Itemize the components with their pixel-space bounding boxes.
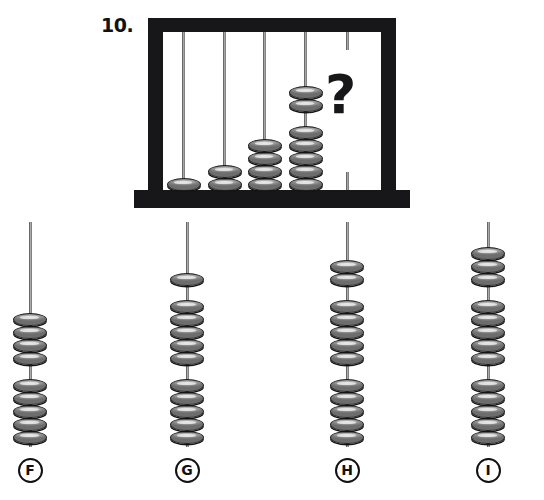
- option-f-bead: [13, 405, 47, 418]
- option-h-bead: [330, 273, 364, 286]
- abacus-bead: [248, 165, 282, 178]
- abacus-bead: [289, 99, 323, 112]
- abacus-rod-1: [182, 32, 185, 190]
- abacus-bead: [289, 126, 323, 139]
- option-g-bead: [170, 352, 204, 365]
- option-label-h[interactable]: H: [335, 458, 360, 483]
- option-f-bead: [13, 392, 47, 405]
- option-i-bead: [471, 300, 505, 313]
- question-mark-icon: ?: [325, 68, 356, 122]
- option-i-bead: [471, 392, 505, 405]
- question-number: 10.: [101, 14, 133, 36]
- option-f-bead: [13, 431, 47, 444]
- option-g-bead: [170, 405, 204, 418]
- frame-base-bar: [134, 190, 410, 208]
- abacus-bead: [289, 152, 323, 165]
- option-i-bead: [471, 405, 505, 418]
- option-g-bead: [170, 418, 204, 431]
- abacus-bead: [289, 86, 323, 99]
- frame-post-right: [381, 18, 396, 190]
- option-h-bead: [330, 418, 364, 431]
- option-h-bead: [330, 300, 364, 313]
- option-g-bead: [170, 392, 204, 405]
- option-g-bead: [170, 339, 204, 352]
- abacus-bead: [248, 139, 282, 152]
- option-i-bead: [471, 352, 505, 365]
- option-h-bead: [330, 260, 364, 273]
- option-f-bead: [13, 352, 47, 365]
- frame-top-bar: [148, 18, 396, 32]
- option-h-bead: [330, 405, 364, 418]
- abacus-rod-5-stub-top: [346, 32, 349, 50]
- option-g-bead: [170, 300, 204, 313]
- option-i-bead: [471, 326, 505, 339]
- option-h-bead: [330, 313, 364, 326]
- option-g-bead: [170, 431, 204, 444]
- option-label-f[interactable]: F: [18, 458, 43, 483]
- option-i-bead: [471, 260, 505, 273]
- option-h-bead: [330, 379, 364, 392]
- worksheet-page: 10. ? FGHI: [0, 0, 544, 500]
- option-label-g[interactable]: G: [175, 458, 200, 483]
- abacus-bead: [289, 139, 323, 152]
- option-i-bead: [471, 273, 505, 286]
- option-i-bead: [471, 339, 505, 352]
- option-label-i[interactable]: I: [476, 458, 501, 483]
- abacus-bead: [208, 178, 242, 191]
- option-f-bead: [13, 339, 47, 352]
- abacus-bead: [208, 165, 242, 178]
- option-h-bead: [330, 326, 364, 339]
- option-f-bead: [13, 313, 47, 326]
- option-h-bead: [330, 339, 364, 352]
- option-h-bead: [330, 352, 364, 365]
- abacus-bead: [248, 178, 282, 191]
- option-f-bead: [13, 326, 47, 339]
- option-g-bead: [170, 379, 204, 392]
- abacus-frame: [148, 18, 396, 208]
- option-i-bead: [471, 431, 505, 444]
- option-g-bead: [170, 326, 204, 339]
- option-g-bead: [170, 313, 204, 326]
- option-f-bead: [13, 418, 47, 431]
- abacus-bead: [248, 152, 282, 165]
- frame-post-left: [148, 18, 163, 190]
- abacus-bead: [289, 178, 323, 191]
- option-i-bead: [471, 418, 505, 431]
- option-g-bead: [170, 273, 204, 286]
- abacus-bead: [289, 165, 323, 178]
- option-i-bead: [471, 379, 505, 392]
- abacus-bead: [167, 178, 201, 191]
- option-i-bead: [471, 247, 505, 260]
- option-h-bead: [330, 431, 364, 444]
- option-i-bead: [471, 313, 505, 326]
- option-h-bead: [330, 392, 364, 405]
- option-f-bead: [13, 379, 47, 392]
- abacus-rod-5-stub-bottom: [346, 172, 349, 190]
